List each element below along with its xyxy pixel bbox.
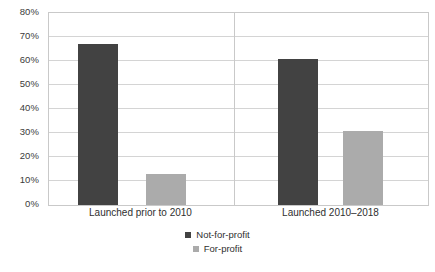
category-divider [234, 13, 235, 205]
legend-item-for-profit: For-profit [193, 243, 243, 254]
y-axis-tick-30: 30% [0, 127, 39, 137]
y-axis-tick-50: 50% [0, 79, 39, 89]
legend-swatch-icon [193, 246, 199, 252]
y-axis-tick-0: 0% [0, 199, 39, 209]
x-axis-label-2010-2018: Launched 2010–2018 [234, 206, 427, 220]
x-axis: Launched prior to 2010 Launched 2010–201… [48, 206, 427, 224]
chart-legend: Not-for-profit For-profit [0, 229, 435, 254]
y-axis-tick-20: 20% [0, 151, 39, 161]
legend-item-not-for-profit: Not-for-profit [185, 229, 249, 240]
y-axis-tick-70: 70% [0, 31, 39, 41]
x-axis-label-prior-2010: Launched prior to 2010 [48, 206, 233, 220]
bar-chart: 80% 70% 60% 50% 40% 30% 20% 10% 0% Launc… [0, 0, 435, 272]
y-axis-tick-40: 40% [0, 103, 39, 113]
y-axis: 80% 70% 60% 50% 40% 30% 20% 10% 0% [0, 0, 44, 215]
legend-swatch-icon [185, 232, 191, 238]
bar-for-profit-prior-2010 [146, 174, 186, 205]
legend-label: For-profit [204, 243, 243, 254]
gridline-70 [49, 36, 428, 37]
plot-area [48, 12, 429, 206]
bar-for-profit-2010-2018 [343, 131, 383, 205]
bar-not-for-profit-2010-2018 [278, 59, 318, 205]
y-axis-tick-10: 10% [0, 175, 39, 185]
legend-label: Not-for-profit [196, 229, 249, 240]
y-axis-tick-80: 80% [0, 7, 39, 17]
y-axis-tick-60: 60% [0, 55, 39, 65]
bar-not-for-profit-prior-2010 [78, 44, 118, 205]
